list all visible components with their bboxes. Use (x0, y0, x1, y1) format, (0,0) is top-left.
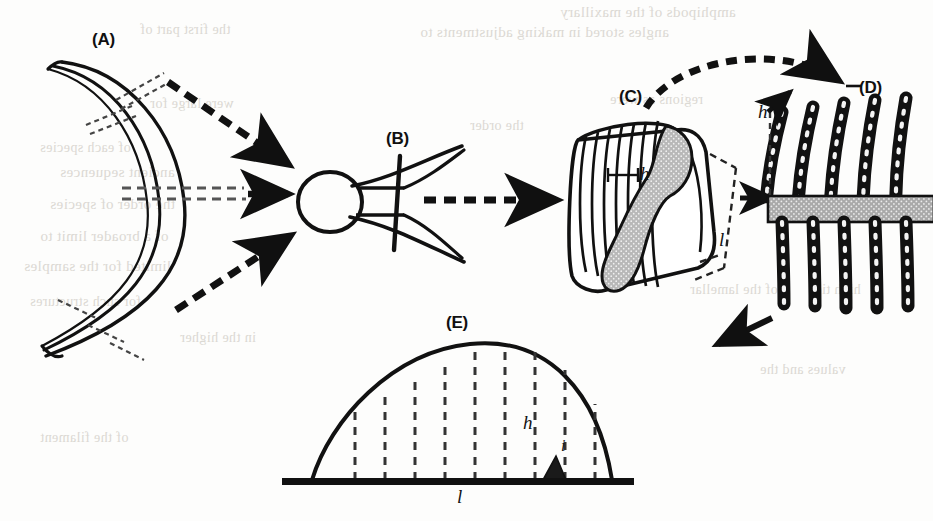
interlamellar-peak (543, 456, 566, 480)
panel-label-c: (C) (619, 87, 642, 107)
arrow-c-to-d (646, 59, 838, 108)
h-label-panel-c: h (640, 163, 650, 185)
h-label-panel-d: h (758, 101, 768, 123)
figure-linework (0, 0, 933, 521)
l-label-panel-c: l (719, 229, 724, 251)
l-label-panel-e: l (457, 486, 462, 508)
panel-e-lamella-profile (282, 343, 634, 485)
panel-label-b: (B) (386, 129, 409, 149)
i-label-panel-e: i (561, 437, 565, 455)
panel-label-a: (A) (92, 30, 115, 50)
lamella-upper-group (766, 98, 906, 198)
lamella-outline (312, 343, 612, 480)
arrow-d-to-e (718, 318, 772, 344)
arrow-a-bottom-to-b (176, 236, 290, 310)
panel-a-gill-arch (42, 62, 246, 360)
lamella-lower-group (782, 222, 908, 308)
panel-label-e: (E) (446, 313, 468, 333)
panel-e-baseline (282, 478, 634, 485)
panel-d-lamellae-section (766, 86, 933, 308)
panel-label-d: (D) (859, 78, 882, 98)
dashed-height-lines (355, 345, 595, 480)
h-label-panel-e: h (523, 412, 533, 434)
gill-morphology-figure: amphipods of the maxillaryangles stored … (0, 0, 933, 521)
arrow-a-top-to-b (168, 82, 288, 164)
panel-b-gill-filament (298, 146, 464, 262)
panel-c-lamellar-block (569, 121, 772, 291)
